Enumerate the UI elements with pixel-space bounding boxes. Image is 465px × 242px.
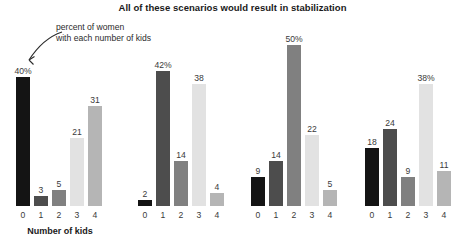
bar-slot: 180 [365,31,379,206]
bar-slot: 20 [138,31,152,206]
bar[interactable] [365,148,379,206]
x-tick-label: 4 [433,210,455,220]
bar-group-4: 1802419238%3114 [365,31,455,206]
bar[interactable] [210,193,224,206]
bar-group-2: 2042%114238344 [138,31,228,206]
bar[interactable] [192,84,206,206]
bar[interactable] [16,77,30,206]
bar[interactable] [88,106,102,206]
bar[interactable] [156,71,170,206]
bar-slot: 40%0 [16,31,30,206]
bar-value-label: 31 [84,95,106,105]
bar[interactable] [419,84,433,206]
bar[interactable] [323,190,337,206]
bar-slot: 92 [401,31,415,206]
bar-value-label: 40% [12,66,34,76]
bar[interactable] [287,45,301,206]
bar-value-label: 14 [265,150,287,160]
bar-value-label: 4 [206,182,228,192]
bar-value-label: 24 [379,118,401,128]
bar-value-label: 2 [134,189,156,199]
bar-slot: 50%2 [287,31,301,206]
bar-slot: 141 [269,31,283,206]
bar-slot: 42%1 [156,31,170,206]
bar-slot: 383 [192,31,206,206]
bar[interactable] [437,171,451,206]
x-tick-label: 4 [206,210,228,220]
chart-figure: All of these scenarios would result in s… [0,0,465,242]
bar-value-label: 9 [397,166,419,176]
bar-slot: 44 [210,31,224,206]
bar-value-label: 22 [301,124,323,134]
bar-slot: 241 [383,31,397,206]
bar-value-label: 18 [361,137,383,147]
page-title: All of these scenarios would result in s… [0,2,465,13]
bar-slot: 54 [323,31,337,206]
bar[interactable] [70,138,84,206]
bar-value-label: 38 [188,73,210,83]
x-tick-label: 4 [319,210,341,220]
bar-slot: 38%3 [419,31,433,206]
bar-slot: 314 [88,31,102,206]
bar-slot: 90 [251,31,265,206]
bar-value-label: 42% [152,60,174,70]
bar-value-label: 38% [415,73,437,83]
bar[interactable] [174,161,188,206]
bar-slot: 52 [52,31,66,206]
bar-value-label: 50% [283,34,305,44]
bar-slot: 142 [174,31,188,206]
bar-value-label: 5 [319,179,341,189]
bar-slot: 114 [437,31,451,206]
bar[interactable] [401,177,415,206]
bar-value-label: 5 [48,179,70,189]
bar[interactable] [383,129,397,206]
bar[interactable] [34,196,48,206]
bar-value-label: 21 [66,127,88,137]
x-tick-label: 4 [84,210,106,220]
bar[interactable] [52,190,66,206]
bar[interactable] [269,161,283,206]
bar-slot: 31 [34,31,48,206]
bar-value-label: 9 [247,166,269,176]
bar-group-3: 9014150%222354 [251,31,341,206]
bar-slot: 223 [305,31,319,206]
bar-value-label: 14 [170,150,192,160]
axis-title-x: Number of kids [14,226,106,236]
bar[interactable] [305,135,319,206]
bar-group-1: 40%03152213314 [16,31,106,206]
bar[interactable] [251,177,265,206]
bar-value-label: 11 [433,160,455,170]
bar-slot: 213 [70,31,84,206]
bar[interactable] [138,200,152,206]
